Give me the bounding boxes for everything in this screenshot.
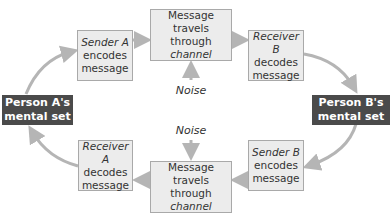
sender-b-box: Sender B encodes message [248, 140, 304, 191]
noise-bottom-label: Noise [161, 124, 221, 137]
channel-bottom-line3: channel [170, 200, 212, 213]
person-a-mental-set: Person A's mental set [2, 95, 73, 125]
receiver-a-role: Receiver A [79, 140, 132, 166]
person-b-line2: mental set [318, 110, 384, 124]
receiver-b-role: Receiver B [249, 30, 303, 56]
channel-bottom-line2: travels through [151, 174, 231, 200]
sender-b-action: encodes [254, 159, 298, 172]
sender-a-object: message [81, 62, 128, 75]
receiver-b-box: Receiver B decodes message [248, 30, 304, 81]
receiver-b-action: decodes [254, 56, 298, 69]
channel-top-box: Message travels through channel [150, 9, 232, 61]
sender-a-role: Sender A [81, 36, 129, 49]
channel-top-line1: Message [168, 9, 214, 22]
receiver-a-object: message [82, 179, 129, 192]
channel-bottom-line1: Message [168, 161, 214, 174]
noise-top-label: Noise [161, 84, 221, 97]
person-b-line1: Person B's [318, 96, 383, 110]
person-b-mental-set: Person B's mental set [312, 95, 390, 125]
channel-top-line3: channel [170, 48, 212, 61]
receiver-a-box: Receiver A decodes message [78, 140, 133, 191]
person-a-line1: Person A's [5, 96, 70, 110]
channel-top-line2: travels through [151, 22, 231, 48]
receiver-a-action: decodes [84, 166, 128, 179]
channel-bottom-box: Message travels through channel [150, 161, 232, 213]
receiver-b-object: message [252, 69, 299, 82]
sender-b-role: Sender B [252, 146, 300, 159]
sender-a-action: encodes [83, 49, 127, 62]
sender-b-object: message [252, 172, 299, 185]
person-a-line2: mental set [4, 110, 70, 124]
sender-a-box: Sender A encodes message [77, 30, 133, 81]
